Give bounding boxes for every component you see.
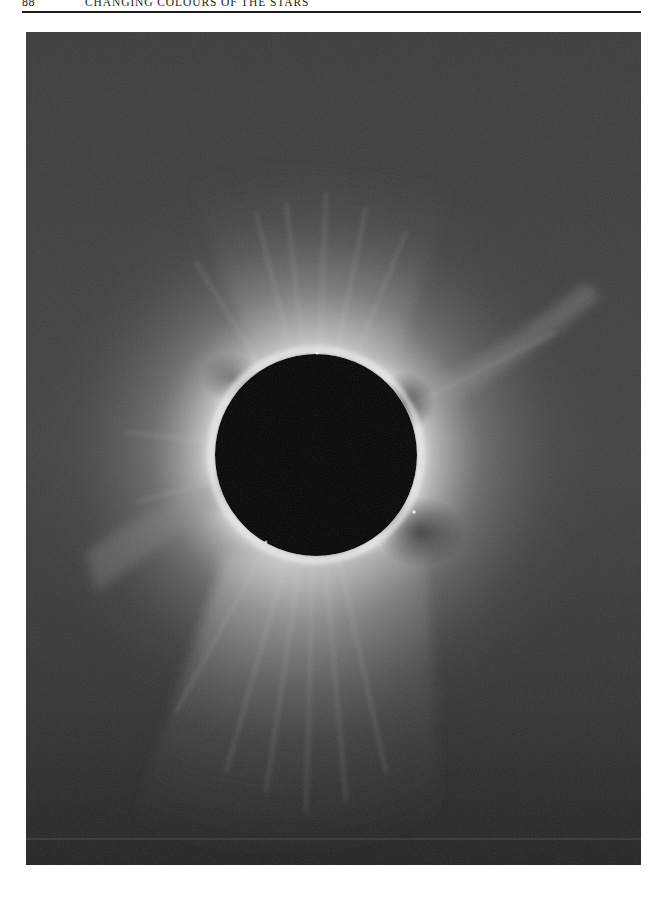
corona-illustration — [26, 32, 641, 865]
running-title: Changing Colours of the Stars — [85, 0, 309, 10]
eclipse-photograph — [26, 32, 641, 865]
header-rule — [22, 11, 641, 13]
page-number: 88 — [22, 0, 35, 10]
running-head: 88 Changing Colours of the Stars — [22, 0, 640, 10]
